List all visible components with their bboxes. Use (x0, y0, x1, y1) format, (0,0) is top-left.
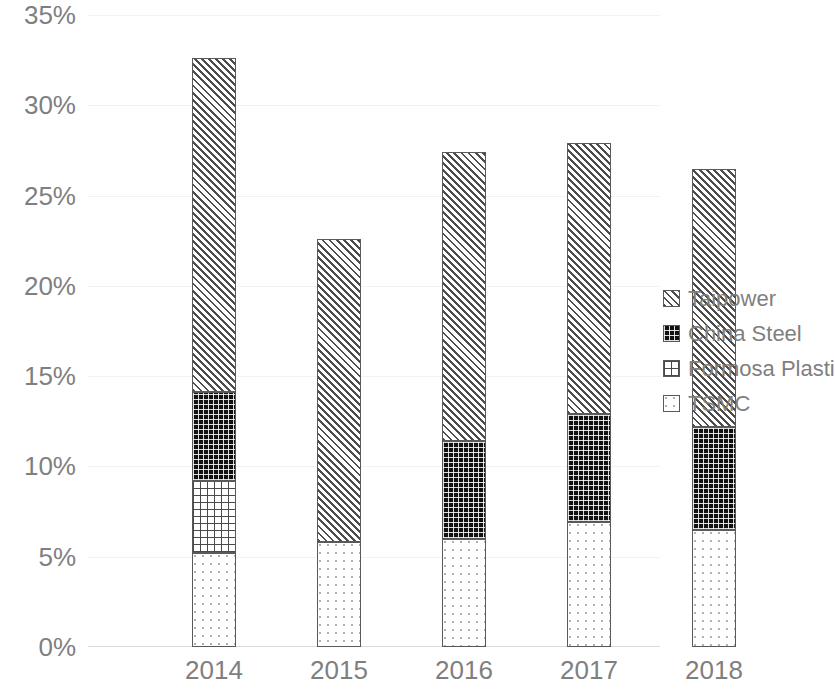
legend-label: China Steel (688, 323, 802, 345)
stacked-bar-chart: 35% 30% 25% 20% 15% 10% 5% 0% 2014 2015 … (0, 0, 835, 690)
bar-segment-china-steel-2016[interactable] (442, 441, 486, 539)
y-axis: 35% 30% 25% 20% 15% 10% 5% 0% (0, 0, 88, 690)
legend-swatch-taipower-icon (663, 290, 680, 307)
legend-item-china-steel[interactable]: China Steel (663, 316, 835, 351)
y-tick-label: 0% (38, 632, 76, 663)
legend-label: Taipower (688, 288, 776, 310)
bar-segment-taipower-2016[interactable] (442, 152, 486, 441)
y-tick-label: 25% (24, 181, 76, 212)
bar-segment-taipower-2017[interactable] (567, 143, 611, 414)
bar-segment-tsmc-2018[interactable] (692, 530, 736, 647)
bar-group-2017[interactable] (567, 15, 611, 647)
legend-item-formosa-plastic[interactable]: Formosa Plastic (663, 351, 835, 386)
legend: Taipower China Steel Formosa Plastic TSM… (663, 281, 835, 421)
bar-segment-tsmc-2014[interactable] (192, 553, 236, 647)
bar-segment-tsmc-2017[interactable] (567, 522, 611, 647)
bar-segment-china-steel-2018[interactable] (692, 427, 736, 530)
x-tick-label-2018: 2018 (685, 655, 743, 686)
bar-group-2014[interactable] (192, 15, 236, 647)
legend-item-taipower[interactable]: Taipower (663, 281, 835, 316)
y-tick-label: 35% (24, 0, 76, 31)
bar-segment-tsmc-2016[interactable] (442, 539, 486, 647)
bar-segment-formosa-plastic-2014[interactable] (192, 481, 236, 553)
legend-swatch-china-steel-icon (663, 325, 680, 342)
y-tick-label: 10% (24, 451, 76, 482)
x-tick-label-2014: 2014 (185, 655, 243, 686)
y-tick-label: 5% (38, 542, 76, 573)
y-tick-label: 20% (24, 271, 76, 302)
legend-swatch-tsmc-icon (663, 395, 680, 412)
plot-area (88, 15, 660, 647)
bar-segment-tsmc-2015[interactable] (317, 542, 361, 647)
bar-segment-china-steel-2014[interactable] (192, 392, 236, 480)
x-tick-label-2016: 2016 (435, 655, 493, 686)
x-tick-label-2017: 2017 (560, 655, 618, 686)
bar-group-2016[interactable] (442, 15, 486, 647)
bar-segment-china-steel-2017[interactable] (567, 414, 611, 522)
legend-label: TSMC (688, 393, 750, 415)
y-tick-label: 30% (24, 90, 76, 121)
bar-group-2015[interactable] (317, 15, 361, 647)
legend-item-tsmc[interactable]: TSMC (663, 386, 835, 421)
bar-segment-taipower-2015[interactable] (317, 239, 361, 542)
legend-swatch-formosa-plastic-icon (663, 360, 680, 377)
y-tick-label: 15% (24, 361, 76, 392)
bar-segment-taipower-2014[interactable] (192, 58, 236, 392)
legend-label: Formosa Plastic (688, 358, 835, 380)
x-tick-label-2015: 2015 (310, 655, 368, 686)
